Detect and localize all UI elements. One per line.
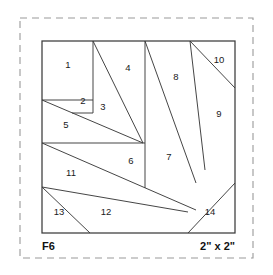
piece-number-11: 11 [66, 167, 76, 178]
block-size-label: 2" x 2" [200, 240, 235, 252]
piece-number-7: 7 [166, 151, 171, 162]
piece-number-4: 4 [125, 62, 130, 73]
pattern-page: 1234567891011121314 F6 2" x 2" [0, 0, 273, 275]
piece-number-14: 14 [205, 206, 216, 217]
block-outline [42, 41, 235, 233]
piece-number-6: 6 [128, 155, 133, 166]
piece-number-8: 8 [173, 71, 178, 82]
quilt-block-diagram: 1234567891011121314 F6 2" x 2" [0, 0, 273, 275]
piece-number-13: 13 [54, 206, 65, 217]
block-label: F6 [42, 240, 55, 252]
piece-number-10: 10 [214, 54, 225, 65]
piece-number-9: 9 [216, 108, 221, 119]
piece-number-5: 5 [63, 119, 68, 130]
piece-number-1: 1 [65, 59, 70, 70]
piece-number-2: 2 [80, 95, 85, 106]
piece-number-12: 12 [101, 206, 112, 217]
piece-number-3: 3 [100, 101, 105, 112]
